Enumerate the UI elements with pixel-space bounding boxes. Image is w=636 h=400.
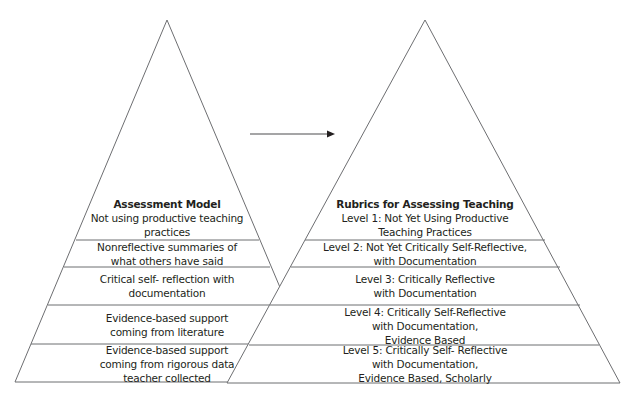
left-tier-4: Evidence-based support coming from liter… bbox=[67, 311, 267, 339]
left-tier-3: Critical self- reflection with documenta… bbox=[67, 272, 267, 300]
tier-text: Level 4: Critically Self-Reflective bbox=[325, 305, 525, 319]
right-tier-1: Rubrics for Assessing Teaching Level 1: … bbox=[325, 197, 525, 239]
tier-text: Teaching Practices bbox=[325, 225, 525, 239]
tier-text: coming from rigorous data bbox=[67, 357, 267, 371]
left-tier-2: Nonreflective summaries of what others h… bbox=[67, 240, 267, 268]
left-tier-1: Assessment Model Not using productive te… bbox=[67, 197, 267, 239]
right-pyramid-title: Rubrics for Assessing Teaching bbox=[325, 197, 525, 211]
tier-text: practices bbox=[67, 225, 267, 239]
tier-text: with Documentation, bbox=[325, 319, 525, 333]
tier-text: coming from literature bbox=[67, 325, 267, 339]
tier-text: documentation bbox=[67, 286, 267, 300]
right-tier-3: Level 3: Critically Reflective with Docu… bbox=[325, 272, 525, 300]
tier-text: Nonreflective summaries of bbox=[67, 240, 267, 254]
tier-text: what others have said bbox=[67, 254, 267, 268]
left-tier-5: Evidence-based support coming from rigor… bbox=[67, 343, 267, 385]
tier-text: Level 2: Not Yet Critically Self-Reflect… bbox=[305, 240, 545, 254]
tier-text: with Documentation bbox=[325, 286, 525, 300]
tier-text: Level 3: Critically Reflective bbox=[325, 272, 525, 286]
right-tier-5: Level 5: Critically Self- Reflective wit… bbox=[325, 343, 525, 385]
right-tier-4: Level 4: Critically Self-Reflective with… bbox=[325, 305, 525, 347]
tier-text: with Documentation bbox=[305, 254, 545, 268]
right-arrow-icon bbox=[250, 131, 335, 138]
tier-text: Critical self- reflection with bbox=[67, 272, 267, 286]
tier-text: Not using productive teaching bbox=[67, 211, 267, 225]
tier-text: teacher collected bbox=[67, 371, 267, 385]
tier-text: Evidence Based, Scholarly bbox=[325, 371, 525, 385]
right-tier-2: Level 2: Not Yet Critically Self-Reflect… bbox=[305, 240, 545, 268]
tier-text: Evidence-based support bbox=[67, 311, 267, 325]
tier-text: Evidence-based support bbox=[67, 343, 267, 357]
tier-text: Level 1: Not Yet Using Productive bbox=[325, 211, 525, 225]
tier-text: with Documentation, bbox=[325, 357, 525, 371]
left-pyramid-title: Assessment Model bbox=[67, 197, 267, 211]
tier-text: Level 5: Critically Self- Reflective bbox=[325, 343, 525, 357]
